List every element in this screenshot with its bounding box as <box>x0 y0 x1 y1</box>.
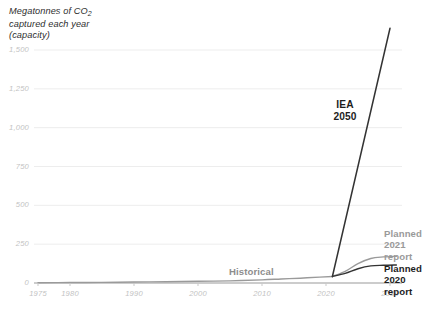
plot-area <box>0 0 439 316</box>
annotation-planned-2020-line3: report <box>384 286 412 297</box>
annotation-planned-2021-line1: Planned <box>384 228 422 239</box>
annotation-iea-line2: 2050 <box>333 111 356 122</box>
annotation-planned-2021-line3: report <box>384 251 412 262</box>
x-tick-label: 2000 <box>178 289 218 298</box>
x-tick-label: 2020 <box>306 289 346 298</box>
y-tick-label: 250 <box>0 239 29 248</box>
y-tick-label: 1,500 <box>0 45 29 54</box>
annotation-iea-2050: IEA2050 <box>328 99 362 123</box>
series-line-iea-2050 <box>332 28 390 276</box>
y-tick-label: 750 <box>0 162 29 171</box>
annotation-planned-2020: Planned2020report <box>384 263 422 297</box>
x-tick-label: 1990 <box>114 289 154 298</box>
annotation-planned-2021: Planned2021report <box>384 228 422 262</box>
y-tick-label: 1,000 <box>0 123 29 132</box>
y-tick-label: 500 <box>0 200 29 209</box>
series-line-historical <box>38 276 332 282</box>
x-tick-label: 1980 <box>50 289 90 298</box>
annotation-planned-2020-line2: 2020 <box>384 274 406 285</box>
x-tick-label: 2010 <box>242 289 282 298</box>
y-tick-label: 0 <box>0 278 29 287</box>
chart-container: Megatonnes of CO2captured each year(capa… <box>0 0 439 316</box>
annotation-planned-2021-line2: 2021 <box>384 239 406 250</box>
y-tick-label: 1,250 <box>0 84 29 93</box>
annotation-planned-2020-line1: Planned <box>384 263 422 274</box>
annotation-historical: Historical <box>229 266 274 277</box>
annotation-iea-line1: IEA <box>336 99 353 110</box>
